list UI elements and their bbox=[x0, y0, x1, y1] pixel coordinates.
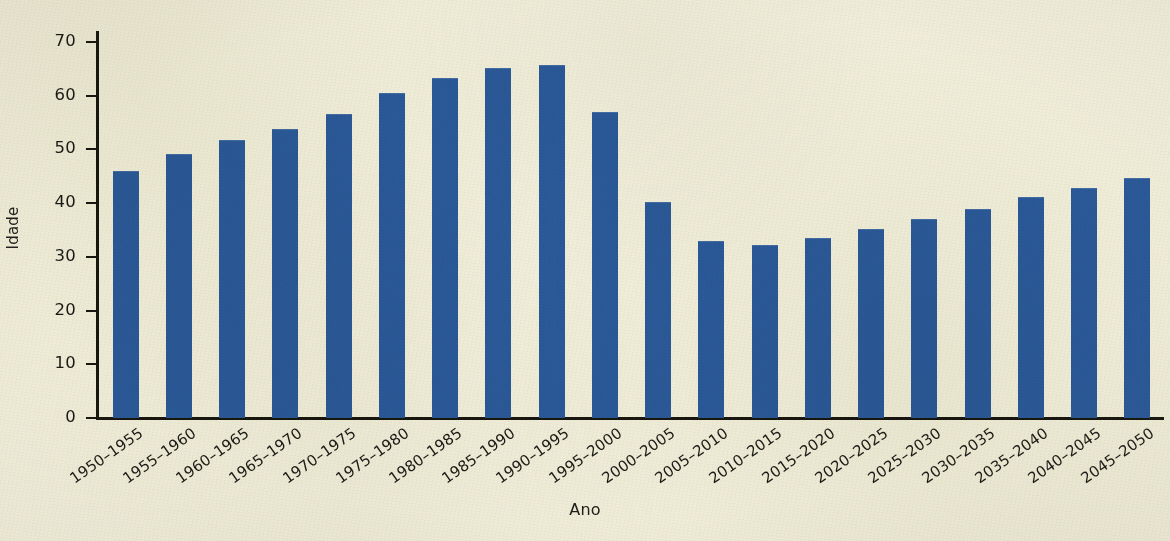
y-axis-tick bbox=[86, 148, 97, 150]
y-axis-tick bbox=[86, 310, 97, 312]
y-axis-tick-label: 40 bbox=[16, 192, 76, 211]
bar[interactable] bbox=[592, 112, 618, 418]
bar-group bbox=[1058, 31, 1111, 418]
y-axis-tick-label: 50 bbox=[16, 138, 76, 157]
bar[interactable] bbox=[379, 93, 405, 418]
bar[interactable] bbox=[166, 154, 192, 418]
y-axis-tick bbox=[86, 41, 97, 43]
bar[interactable] bbox=[752, 245, 778, 418]
bar[interactable] bbox=[539, 65, 565, 418]
bar[interactable] bbox=[485, 68, 511, 418]
bar-group bbox=[578, 31, 631, 418]
x-axis-title: Ano bbox=[0, 500, 1170, 519]
bar[interactable] bbox=[1071, 188, 1097, 418]
bar-group bbox=[152, 31, 205, 418]
y-axis-tick-label: 0 bbox=[16, 407, 76, 426]
bar[interactable] bbox=[805, 238, 831, 418]
y-axis-tick bbox=[86, 417, 97, 419]
bar-group bbox=[419, 31, 472, 418]
bar[interactable] bbox=[113, 171, 139, 418]
bar[interactable] bbox=[1018, 197, 1044, 418]
bar-group bbox=[259, 31, 312, 418]
y-axis-tick bbox=[86, 95, 97, 97]
y-axis-tick bbox=[86, 363, 97, 365]
bar-group bbox=[951, 31, 1004, 418]
bar-group bbox=[1111, 31, 1164, 418]
bar-group bbox=[365, 31, 418, 418]
bar-group bbox=[472, 31, 525, 418]
bar-group bbox=[312, 31, 365, 418]
y-axis-tick bbox=[86, 256, 97, 258]
bar[interactable] bbox=[1124, 178, 1150, 418]
y-axis-tick-label: 20 bbox=[16, 300, 76, 319]
y-axis-tick bbox=[86, 202, 97, 204]
y-axis-title: Idade bbox=[4, 173, 22, 283]
bar-group bbox=[685, 31, 738, 418]
y-axis-tick-label: 30 bbox=[16, 246, 76, 265]
bar-group bbox=[206, 31, 259, 418]
bar-group bbox=[1004, 31, 1057, 418]
bar[interactable] bbox=[326, 114, 352, 418]
bar-group bbox=[632, 31, 685, 418]
y-axis-tick-label: 10 bbox=[16, 353, 76, 372]
bar-chart: Idade 010203040506070 1950–19551955–1960… bbox=[0, 0, 1170, 541]
y-axis-tick-label: 70 bbox=[16, 31, 76, 50]
bar[interactable] bbox=[698, 241, 724, 418]
bar[interactable] bbox=[432, 78, 458, 418]
bar-group bbox=[845, 31, 898, 418]
bar-group bbox=[525, 31, 578, 418]
bar[interactable] bbox=[911, 219, 937, 418]
bar-group bbox=[898, 31, 951, 418]
bar[interactable] bbox=[965, 209, 991, 418]
plot-area bbox=[99, 31, 1164, 418]
bar[interactable] bbox=[858, 229, 884, 418]
bar[interactable] bbox=[219, 140, 245, 418]
bar-group bbox=[791, 31, 844, 418]
bar[interactable] bbox=[645, 202, 671, 418]
bar-group bbox=[99, 31, 152, 418]
y-axis-tick-label: 60 bbox=[16, 85, 76, 104]
bar-group bbox=[738, 31, 791, 418]
bar[interactable] bbox=[272, 129, 298, 418]
